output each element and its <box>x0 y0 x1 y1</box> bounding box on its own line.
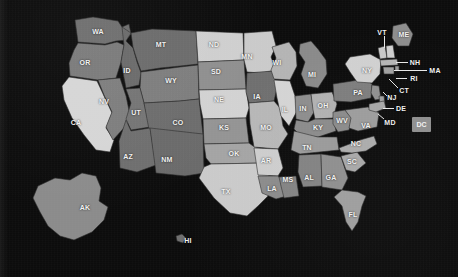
state-label-me: ME <box>399 31 410 38</box>
state-label-pa: PA <box>353 89 363 96</box>
state-label-or: OR <box>80 59 91 66</box>
state-label-sc: SC <box>347 158 357 165</box>
leader-line-de <box>383 108 394 109</box>
state-label-il: IL <box>282 106 289 113</box>
map-canvas: WAORIDMTWYCANVUTCOAZNMNDSDNEKSOKTXMNIAMO… <box>0 0 458 277</box>
state-shape-wy[interactable] <box>140 65 199 103</box>
state-label-wv: WV <box>336 117 348 124</box>
state-label-hi: HI <box>184 237 191 244</box>
state-shape-ak[interactable] <box>33 173 108 240</box>
state-label-az: AZ <box>123 153 133 160</box>
state-label-ar: AR <box>261 157 272 164</box>
state-shape-nd[interactable] <box>196 31 244 62</box>
state-label-de: DE <box>396 105 406 112</box>
state-shape-ks[interactable] <box>203 118 249 144</box>
state-label-nc: NC <box>351 140 362 147</box>
state-label-wi: WI <box>273 59 282 66</box>
state-label-ky: KY <box>313 124 323 131</box>
state-label-ri: RI <box>410 75 417 82</box>
state-shape-sd[interactable] <box>198 60 246 90</box>
state-label-nh: NH <box>410 59 421 66</box>
state-label-ks: KS <box>219 124 229 131</box>
state-label-ma: MA <box>429 67 440 74</box>
state-label-wa: WA <box>92 28 104 35</box>
state-label-mn: MN <box>241 53 252 60</box>
state-label-co: CO <box>173 119 184 126</box>
leader-line-ct <box>389 79 398 88</box>
state-label-fl: FL <box>349 211 358 218</box>
state-label-nj: NJ <box>387 94 396 101</box>
state-label-ia: IA <box>253 93 260 100</box>
state-label-vt: VT <box>377 29 386 36</box>
state-label-tx: TX <box>221 188 230 195</box>
state-label-ak: AK <box>80 204 91 211</box>
state-label-ms: MS <box>283 176 294 183</box>
state-shape-nm[interactable] <box>150 128 204 176</box>
state-label-al: AL <box>304 174 314 181</box>
state-label-ca: CA <box>71 119 82 126</box>
state-label-ct: CT <box>399 87 409 94</box>
state-shape-ne[interactable] <box>199 89 249 119</box>
leader-line-nh <box>396 62 408 63</box>
state-label-la: LA <box>267 185 277 192</box>
state-label-sd: SD <box>211 68 221 75</box>
leader-line-vt <box>384 36 385 48</box>
state-label-ok: OK <box>229 150 240 157</box>
state-label-mt: MT <box>156 41 167 48</box>
state-shape-nh[interactable] <box>386 45 395 58</box>
state-label-dc: DC <box>416 121 426 128</box>
state-label-wy: WY <box>165 77 177 84</box>
state-label-mo: MO <box>260 124 272 131</box>
state-label-nm: NM <box>161 156 172 163</box>
state-shape-mi[interactable] <box>299 41 327 88</box>
state-label-ut: UT <box>131 109 141 116</box>
state-label-oh: OH <box>318 102 329 109</box>
us-map-svg <box>0 0 458 277</box>
state-shape-vt[interactable] <box>378 46 387 59</box>
state-label-nv: NV <box>99 98 109 105</box>
state-label-ne: NE <box>214 96 224 103</box>
state-shape-al[interactable] <box>298 154 322 187</box>
leader-line-md <box>378 114 384 119</box>
leader-line-ri <box>396 78 407 79</box>
state-box-dc[interactable]: DC <box>412 117 431 132</box>
state-label-ga: GA <box>326 174 337 181</box>
state-label-tn: TN <box>302 144 312 151</box>
state-label-va: VA <box>361 122 371 129</box>
state-shape-mt[interactable] <box>131 29 198 71</box>
leader-line-ma <box>394 70 427 71</box>
state-label-md: MD <box>384 119 395 126</box>
state-shape-md[interactable] <box>369 101 386 112</box>
state-shape-or[interactable] <box>69 42 124 80</box>
state-label-id: ID <box>123 67 130 74</box>
state-shape-ct[interactable] <box>383 67 394 74</box>
state-shape-ia[interactable] <box>246 71 277 103</box>
state-label-mi: MI <box>308 71 316 78</box>
state-label-in: IN <box>299 105 306 112</box>
state-label-ny: NY <box>362 67 372 74</box>
state-label-nd: ND <box>209 41 220 48</box>
